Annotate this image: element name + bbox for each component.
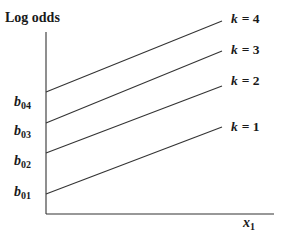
series-label-k2: k= 2 <box>231 73 260 88</box>
series-label-k1: k= 1 <box>231 119 260 134</box>
intercept-label-b03: b03 <box>14 123 31 140</box>
series-label-k3: k= 3 <box>231 42 260 57</box>
intercept-label-b01: b01 <box>14 184 31 201</box>
intercept-label-b04: b04 <box>14 94 31 111</box>
line-k4 <box>46 21 222 92</box>
series-label-k4: k= 4 <box>231 11 260 26</box>
y-axis-title: Log odds <box>5 10 60 25</box>
line-k1 <box>46 127 222 194</box>
intercept-label-b02: b02 <box>14 153 31 170</box>
x-axis-label: x1 <box>242 215 255 232</box>
line-k3 <box>46 51 222 123</box>
log-odds-diagram: Log odds b04 b03 b02 b01 k= 4 k= 3 k= 2 <box>0 0 289 237</box>
line-k2 <box>46 86 222 153</box>
chart-canvas: Log odds b04 b03 b02 b01 k= 4 k= 3 k= 2 <box>0 0 289 237</box>
